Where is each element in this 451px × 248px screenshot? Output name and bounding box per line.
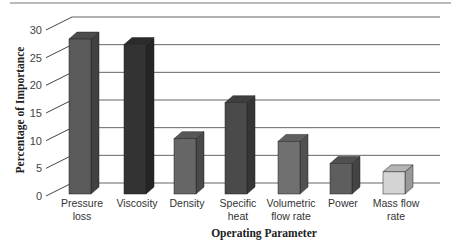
y-tick-label: 30 [30, 24, 42, 36]
x-tick-label: Density [169, 197, 205, 209]
x-tick-label: Power [328, 197, 358, 209]
y-tick-label: 10 [30, 135, 42, 147]
x-tick-label: rate [387, 210, 405, 222]
bars [69, 32, 413, 194]
x-tick-label: Specific [220, 197, 257, 209]
x-tick-label: Viscosity [116, 197, 158, 209]
y-tick-label: 5 [36, 162, 42, 174]
y-tick-label: 20 [30, 79, 42, 91]
x-tick-label: Volumetric [266, 197, 315, 209]
x-tick-label: loss [73, 210, 92, 222]
bar-specific-heat [225, 96, 255, 194]
y-tick-label: 25 [30, 52, 42, 64]
y-axis-label: Percentage of Importance [14, 47, 27, 174]
bar-viscosity [124, 38, 154, 194]
y-tick-label: 15 [30, 107, 42, 119]
bar-mass-flow-rate [383, 165, 413, 194]
x-tick-label: heat [228, 210, 249, 222]
bar-power [330, 157, 360, 194]
bar-volumetric-flow-rate [278, 134, 308, 194]
x-tick-label: Pressure [61, 197, 103, 209]
x-axis-categories: PressurelossViscosityDensitySpecificheat… [61, 197, 420, 222]
bar-pressure-loss [69, 32, 99, 194]
x-axis-label: Operating Parameter [211, 227, 317, 240]
bar-chart: 051015202530 PressurelossViscosityDensit… [0, 0, 451, 248]
x-tick-label: flow rate [271, 210, 311, 222]
y-tick-label: 0 [36, 190, 42, 202]
x-tick-label: Mass flow [373, 197, 420, 209]
y-axis-ticks: 051015202530 [30, 24, 42, 202]
bar-density [174, 132, 204, 194]
